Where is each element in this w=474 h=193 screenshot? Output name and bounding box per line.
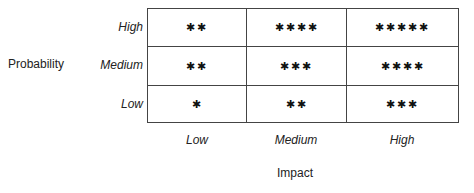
col-label-low: Low — [147, 133, 247, 147]
cell-low-low: ✱ — [148, 86, 247, 122]
cell-medium-medium: ✱✱✱ — [247, 47, 347, 86]
row-label-low: Low — [121, 97, 143, 111]
cell-medium-low: ✱✱ — [148, 47, 247, 86]
cell-low-medium: ✱✱ — [247, 86, 347, 122]
cell-high-low: ✱✱ — [148, 9, 247, 47]
cell-low-high: ✱✱✱ — [347, 86, 458, 122]
cell-medium-high: ✱✱✱✱ — [347, 47, 458, 86]
col-label-high: High — [352, 133, 452, 147]
risk-matrix-grid: ✱✱ ✱✱✱✱ ✱✱✱✱✱ ✱✱ ✱✱✱ ✱✱✱✱ ✱ ✱✱ ✱✱✱ — [147, 8, 459, 123]
col-label-medium: Medium — [246, 133, 346, 147]
row-label-medium: Medium — [100, 58, 143, 72]
impact-axis-label: Impact — [277, 166, 313, 180]
cell-high-high: ✱✱✱✱✱ — [347, 9, 458, 47]
row-label-high: High — [118, 20, 143, 34]
probability-axis-label: Probability — [8, 57, 64, 71]
cell-high-medium: ✱✱✱✱ — [247, 9, 347, 47]
